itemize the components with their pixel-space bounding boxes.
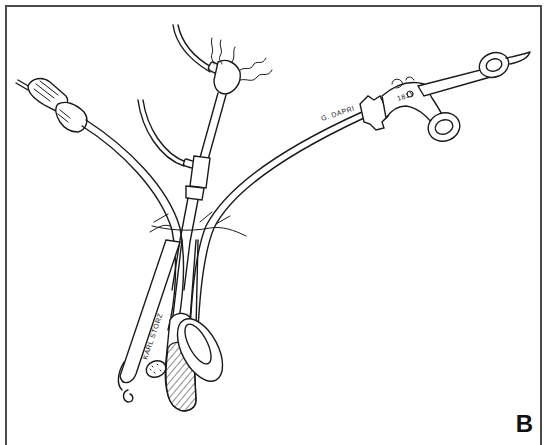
irrigation-tubing-icon	[173, 25, 272, 94]
panel-label: B	[516, 410, 533, 438]
suture-icon	[150, 212, 246, 236]
grasper-inscription: G. DAPRI	[320, 105, 355, 122]
grasper-handle-icon: 1811	[360, 49, 530, 146]
scope-connector-icon	[16, 79, 87, 132]
